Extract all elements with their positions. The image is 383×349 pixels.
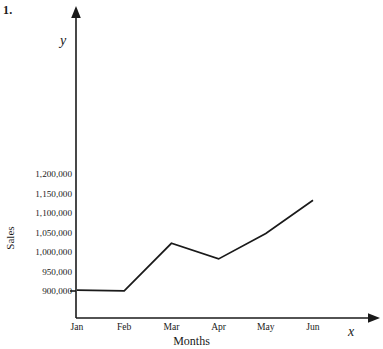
x-tick-label: Jan xyxy=(71,321,84,332)
y-tick-label: 950,000 xyxy=(10,267,72,277)
y-tick-label: 1,100,000 xyxy=(10,208,72,218)
x-tick-label: Mar xyxy=(163,321,179,332)
x-tick-label: May xyxy=(257,321,275,332)
x-tick-label: Apr xyxy=(211,321,226,332)
y-tick-label: 1,050,000 xyxy=(10,228,72,238)
y-axis-title: Sales xyxy=(4,212,16,264)
y-tick-label: 1,000,000 xyxy=(10,247,72,257)
x-tick-label: Jun xyxy=(306,321,319,332)
x-axis-title: Months xyxy=(0,334,383,349)
y-tick-label: 1,150,000 xyxy=(10,189,72,199)
y-tick-label: 1,200,000 xyxy=(10,169,72,179)
y-axis-arrow-icon xyxy=(71,6,81,18)
x-tick-label: Feb xyxy=(117,321,131,332)
chart-figure: 1. y x 1,200,0001,150,0001,100,0001,050,… xyxy=(0,0,383,349)
y-tick-label: 900,000 xyxy=(10,286,72,296)
y-axis-tick-labels: 1,200,0001,150,0001,100,0001,050,0001,00… xyxy=(8,0,72,349)
sales-line-series xyxy=(77,200,313,290)
